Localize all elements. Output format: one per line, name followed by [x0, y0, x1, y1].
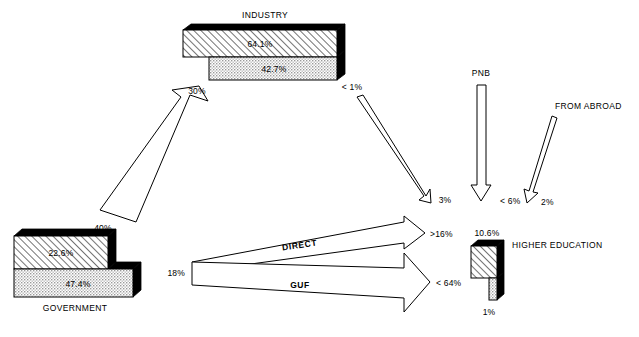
flow-government-split-source-label: 18% — [167, 268, 185, 278]
flow-government-guf-name: GUF — [290, 280, 310, 290]
flow-pnb-to-higher-education-body — [471, 85, 491, 201]
government-hatched-value: 22.6% — [48, 248, 73, 258]
flow-from-abroad-to-higher-education-target-label: 2% — [541, 197, 554, 207]
higher-education-hatched-bar — [471, 246, 497, 278]
node-from-abroad: FROM ABROAD — [555, 101, 622, 111]
flow-government-to-industry: 40% 30% — [94, 86, 208, 233]
flow-industry-to-higher-education: < 1% 3% — [342, 82, 452, 205]
node-industry: INDUSTRY 64.1% 42.7% — [183, 10, 345, 80]
node-from-abroad-label: FROM ABROAD — [555, 101, 622, 111]
higher-education-hatched-value: 10.6% — [474, 228, 499, 238]
industry-stippled-value: 42.7% — [261, 64, 286, 74]
flow-pnb-to-higher-education-target-label: < 6% — [500, 196, 521, 206]
flow-government-to-industry-body — [100, 86, 208, 222]
flow-from-abroad-to-higher-education: 2% — [524, 116, 557, 207]
flow-industry-to-higher-education-body — [357, 95, 431, 203]
funding-flow-diagram: INDUSTRY 64.1% 42.7% 22.6% 47.4% — [0, 0, 639, 337]
node-pnb-label: PNB — [472, 68, 491, 78]
flow-government-to-industry-target-label: 30% — [188, 86, 206, 96]
flow-government-direct-target-label: >16% — [430, 229, 453, 239]
node-government: 22.6% 47.4% GOVERNMENT — [14, 229, 141, 313]
higher-education-bevel-side — [497, 240, 504, 278]
node-government-label: GOVERNMENT — [43, 303, 107, 313]
flow-government-to-industry-source-label: 40% — [94, 223, 112, 233]
diagram-canvas: INDUSTRY 64.1% 42.7% 22.6% 47.4% — [0, 0, 639, 337]
flow-from-abroad-to-higher-education-body — [524, 116, 557, 203]
higher-education-stippled-bar — [489, 278, 497, 300]
node-pnb: PNB — [472, 68, 491, 78]
flow-industry-to-higher-education-target-label: 3% — [439, 195, 452, 205]
flow-industry-to-higher-education-source-label: < 1% — [342, 82, 363, 92]
node-higher-education-label: HIGHER EDUCATION — [512, 240, 602, 250]
higher-education-stippled-value: 1% — [483, 307, 496, 317]
government-stippled-value: 47.4% — [65, 279, 90, 289]
flow-pnb-to-higher-education: < 6% — [471, 85, 521, 206]
industry-hatched-value: 64.1% — [247, 39, 272, 49]
node-industry-label: INDUSTRY — [242, 10, 288, 20]
flow-government-guf-target-label: < 64% — [436, 278, 462, 288]
node-higher-education: 10.6% 1% HIGHER EDUCATION — [471, 228, 602, 317]
industry-hatched-bevel-top — [183, 24, 345, 30]
